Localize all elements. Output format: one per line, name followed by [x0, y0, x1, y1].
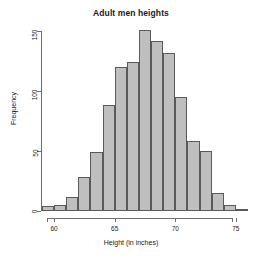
- histogram-bar: [175, 97, 187, 211]
- x-axis-tick: [54, 218, 55, 222]
- histogram-bar: [151, 41, 163, 211]
- x-axis-tick-label: 75: [232, 225, 239, 232]
- histogram-bar: [42, 206, 54, 211]
- histogram-bar: [127, 62, 139, 211]
- histogram-bars: [42, 25, 248, 211]
- x-axis: 60657075: [47, 218, 233, 219]
- x-axis-tick: [115, 218, 116, 222]
- x-axis-title: Height (in inches): [0, 238, 262, 247]
- histogram-bar: [103, 105, 115, 211]
- histogram-bar: [212, 193, 224, 211]
- histogram-bar: [139, 30, 151, 211]
- histogram-bar: [187, 141, 199, 211]
- histogram-bar: [200, 151, 212, 211]
- y-axis-tick-label: 100: [32, 90, 39, 101]
- plot-area: [42, 25, 248, 211]
- x-axis-tick-label: 60: [50, 225, 57, 232]
- histogram-chart: Adult men heights 050100150 60657075 Fre…: [0, 0, 262, 262]
- x-axis-tick: [236, 218, 237, 222]
- y-axis-tick-label: 0: [32, 210, 39, 214]
- y-axis-tick-label: 50: [32, 150, 39, 157]
- y-axis-tick-label: 150: [32, 30, 39, 41]
- histogram-bar: [163, 53, 175, 211]
- x-axis-end-cap: [47, 218, 48, 222]
- histogram-bar: [66, 197, 78, 211]
- histogram-bar: [90, 152, 102, 211]
- histogram-bar: [236, 209, 248, 211]
- x-axis-end-cap: [232, 218, 233, 222]
- histogram-bar: [54, 205, 66, 211]
- x-axis-tick-label: 65: [111, 225, 118, 232]
- x-axis-tick-label: 70: [172, 225, 179, 232]
- histogram-bar: [78, 177, 90, 211]
- histogram-bar: [224, 205, 236, 211]
- y-axis-title: Frequency: [10, 69, 17, 149]
- histogram-bar: [115, 67, 127, 211]
- x-axis-tick: [175, 218, 176, 222]
- chart-title: Adult men heights: [0, 8, 262, 18]
- y-axis: 050100150: [41, 31, 42, 211]
